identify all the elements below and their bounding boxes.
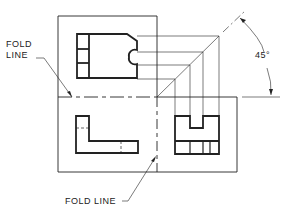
- miter-line: [157, 36, 219, 97]
- side-view-frame: [157, 97, 237, 172]
- fold-line-label-upper-2: LINE: [6, 50, 28, 61]
- angle-label: 45°: [255, 50, 270, 61]
- front-view-part: [76, 116, 138, 153]
- vertical-projection-lines: [175, 36, 219, 116]
- fold-line-label-lower: FOLD LINE: [65, 196, 116, 207]
- orthographic-projection-diagram: FOLD LINE FOLD LINE 45°: [0, 0, 285, 214]
- horizontal-projection-lines: [137, 36, 219, 79]
- side-view-part: [175, 116, 219, 154]
- lower-fold-leader: [122, 158, 155, 201]
- front-view-frame: [58, 97, 157, 172]
- drawing-svg: [0, 0, 285, 214]
- angle-arc: [240, 18, 264, 52]
- fold-line-label-upper-1: FOLD: [6, 39, 32, 50]
- top-view-part: [77, 34, 137, 78]
- upper-fold-leader: [36, 58, 72, 97]
- top-view-frame: [58, 16, 157, 97]
